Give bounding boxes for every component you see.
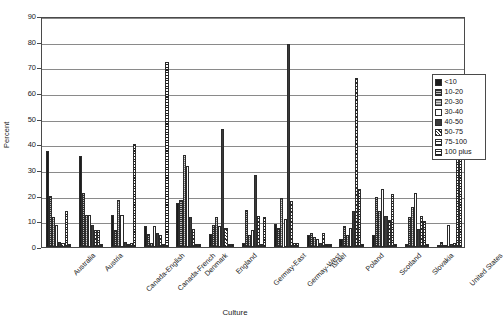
bar <box>361 244 364 247</box>
x-tick-label: Austria <box>102 251 124 273</box>
bar <box>358 189 361 247</box>
legend-swatch <box>435 99 442 106</box>
bar <box>100 244 103 247</box>
y-tick-label: 90 <box>12 13 36 21</box>
y-tick-label: 80 <box>12 39 36 47</box>
bar <box>68 244 71 247</box>
legend-item: 30-40 <box>435 107 482 117</box>
bar <box>263 217 266 247</box>
legend-swatch <box>435 129 442 136</box>
legend-swatch <box>435 139 442 146</box>
legend-swatch <box>435 89 442 96</box>
legend-item: 20-30 <box>435 97 482 107</box>
y-tick-mark <box>37 248 41 249</box>
y-tick-label: 20 <box>12 193 36 201</box>
plot-area <box>41 17 465 248</box>
legend-label: 10-20 <box>445 88 463 96</box>
legend-item: 10-20 <box>435 87 482 97</box>
bar-group <box>274 18 299 247</box>
x-tick-label: Australia <box>71 251 97 277</box>
y-tick-label: 70 <box>12 64 36 72</box>
bar-group <box>372 18 397 247</box>
bar-group <box>405 18 430 247</box>
y-tick-label: 60 <box>12 90 36 98</box>
legend-item: 40-50 <box>435 117 482 127</box>
bar <box>296 243 299 247</box>
legend-item: 75-100 <box>435 137 482 147</box>
legend-item: 50-75 <box>435 127 482 137</box>
bar-group <box>339 18 364 247</box>
legend-swatch <box>435 119 442 126</box>
legend-label: 30-40 <box>445 108 463 116</box>
legend-label: 75-100 <box>445 138 467 146</box>
x-tick-label: Scotland <box>398 251 424 277</box>
legend-label: 40-50 <box>445 118 463 126</box>
legend-item: 100 plus <box>435 147 482 157</box>
bar <box>231 244 234 247</box>
x-tick-label: Poland <box>363 251 385 273</box>
bar <box>394 244 397 247</box>
legend-swatch <box>435 149 442 156</box>
bar-group <box>46 18 71 247</box>
y-tick-label: 40 <box>12 141 36 149</box>
x-tick-label: England <box>234 251 259 276</box>
bar <box>65 211 68 247</box>
x-tick-label: United States <box>467 251 504 288</box>
y-tick-label: 30 <box>12 167 36 175</box>
y-tick-label: 10 <box>12 218 36 226</box>
bar-group <box>176 18 201 247</box>
bar <box>198 244 201 247</box>
bar <box>423 221 426 247</box>
legend-item: <10 <box>435 77 482 87</box>
legend: <1010-2020-3030-4040-5050-7575-100100 pl… <box>432 74 486 160</box>
bar-group <box>242 18 267 247</box>
y-axis-title: Percent <box>2 104 11 118</box>
bar-group <box>209 18 234 247</box>
bar <box>426 244 429 247</box>
legend-label: <10 <box>445 78 457 86</box>
bar-group <box>79 18 104 247</box>
x-tick-label: Germay-East <box>271 251 307 287</box>
y-tick-label: 0 <box>12 244 36 252</box>
bar-group <box>307 18 332 247</box>
x-axis-title: Culture <box>0 308 470 317</box>
bar <box>391 194 394 247</box>
x-tick-label: Slovakia <box>430 251 456 277</box>
bar-group <box>144 18 169 247</box>
bar <box>165 62 168 247</box>
legend-swatch <box>435 79 442 86</box>
y-tick-label: 50 <box>12 116 36 124</box>
legend-label: 50-75 <box>445 128 463 136</box>
bar <box>257 216 260 247</box>
legend-swatch <box>435 109 442 116</box>
bar-group <box>111 18 136 247</box>
bar <box>133 144 136 247</box>
y-axis-title-text: Percent <box>2 134 11 148</box>
bar <box>329 244 332 247</box>
legend-label: 100 plus <box>445 148 472 156</box>
bar <box>290 201 293 247</box>
legend-label: 20-30 <box>445 98 463 106</box>
